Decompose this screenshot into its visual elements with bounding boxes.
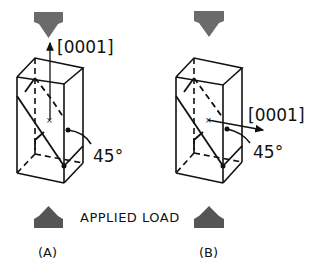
panel-label-b: (B) [199,245,218,260]
load-arrow-up-icon [194,206,224,228]
axis-label-b: [0001] [248,105,305,125]
svg-text:×: × [205,116,212,125]
crystal-load-diagram: × [0001] 45° (A) [0,0,311,272]
svg-text:×: × [46,116,53,125]
angle-arc [227,129,250,143]
angle-arc [68,130,91,144]
angle-label-a: 45° [93,146,123,166]
panel-label-a: (A) [38,245,57,260]
panel-b: × [0001] 45° (B) [176,11,305,260]
load-arrow-down-icon [194,11,224,37]
load-arrow-up-icon [34,206,63,228]
load-arrow-down-icon [34,12,63,38]
applied-load-caption: APPLIED LOAD [80,210,180,225]
angle-label-b: 45° [253,142,283,162]
axis-label-a: [0001] [57,37,114,57]
